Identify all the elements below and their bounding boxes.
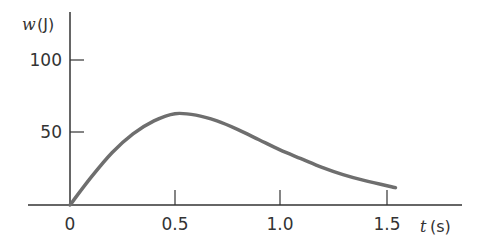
y-tick-label-50: 50 — [40, 122, 62, 142]
energy-curve — [70, 113, 396, 205]
svg-text:t: t — [420, 217, 427, 236]
x-tick-label-0: 0 — [65, 214, 76, 234]
chart-canvas: 100 50 0 0.5 1.0 1.5 w (J) t (s) — [0, 0, 487, 246]
x-tick-label-1.5: 1.5 — [373, 214, 400, 234]
svg-text:(J): (J) — [37, 15, 54, 34]
svg-text:(s): (s) — [430, 217, 451, 236]
x-ticks — [175, 190, 387, 205]
x-tick-label-0.5: 0.5 — [161, 214, 188, 234]
y-tick-label-100: 100 — [30, 50, 62, 70]
x-tick-label-1.0: 1.0 — [266, 214, 293, 234]
svg-text:w: w — [22, 15, 36, 34]
y-axis-label: w (J) — [22, 15, 54, 34]
x-axis-label: t (s) — [420, 217, 451, 236]
y-ticks — [70, 60, 84, 132]
